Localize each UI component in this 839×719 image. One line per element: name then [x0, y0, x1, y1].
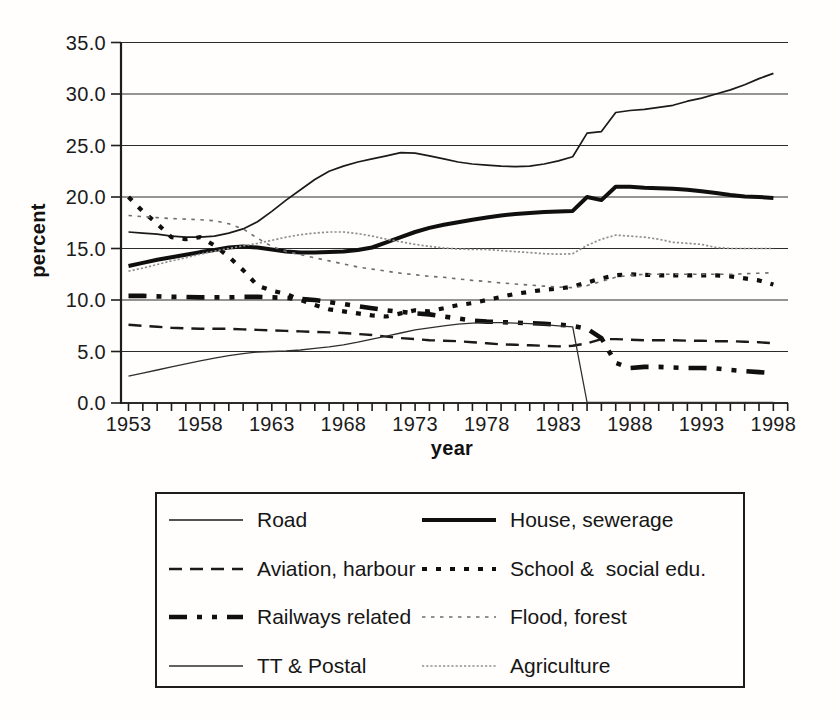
legend-swatch-aviation_harbour-icon [168, 562, 244, 576]
legend-entry-house_sewerage: House, sewerage [421, 508, 673, 532]
legend-swatch-road-icon [168, 513, 244, 527]
legend-swatch-flood_forest-icon [421, 610, 497, 624]
y-tick-label-35: 35.0 [66, 32, 106, 54]
x-tick-label-1983: 1983 [536, 413, 582, 435]
series-line-tt_postal [129, 323, 774, 403]
legend-entry-aviation_harbour: Aviation, harbour [168, 557, 421, 581]
legend-entry-agriculture: Agriculture [421, 654, 610, 678]
legend-entry-tt_postal: TT & Postal [168, 654, 421, 678]
y-tick-label-15: 15.0 [66, 238, 106, 260]
legend-row: Railways relatedFlood, forest [157, 593, 743, 642]
legend-label-school_social_edu: School & social edu. [510, 557, 706, 581]
series-line-railways_related [129, 296, 774, 373]
legend-row: TT & PostalAgriculture [157, 642, 743, 691]
x-tick-label-1968: 1968 [321, 413, 367, 435]
series-line-road [129, 73, 774, 237]
x-axis-title: year [402, 437, 502, 460]
legend-entry-railways_related: Railways related [168, 605, 421, 629]
x-tick-label-1998: 1998 [750, 413, 796, 435]
x-tick-label-1978: 1978 [464, 413, 510, 435]
y-axis-title: percent [27, 181, 50, 301]
legend-swatch-school_social_edu-icon [421, 562, 497, 576]
series-line-house_sewerage [129, 187, 774, 266]
legend-swatch-agriculture-icon [421, 659, 497, 673]
y-tick-label-30: 30.0 [66, 83, 106, 105]
legend-label-flood_forest: Flood, forest [510, 605, 627, 629]
y-tick-label-5: 5.0 [77, 341, 106, 363]
y-tick-label-10: 10.0 [66, 289, 106, 311]
legend-entry-school_social_edu: School & social edu. [421, 557, 706, 581]
legend-row: RoadHouse, sewerage [157, 496, 743, 545]
line-chart: 0.05.010.015.020.025.030.035.01953195819… [0, 0, 839, 470]
x-tick-label-1993: 1993 [679, 413, 725, 435]
legend-entry-road: Road [168, 508, 421, 532]
x-tick-label-1963: 1963 [249, 413, 295, 435]
legend-label-agriculture: Agriculture [510, 654, 610, 678]
legend-swatch-railways_related-icon [168, 610, 244, 624]
legend-box: RoadHouse, sewerageAviation, harbourScho… [155, 492, 745, 688]
series-line-school_social_edu [129, 197, 774, 317]
x-tick-label-1988: 1988 [607, 413, 653, 435]
legend-label-railways_related: Railways related [257, 605, 411, 629]
legend-label-aviation_harbour: Aviation, harbour [257, 557, 415, 581]
legend-swatch-house_sewerage-icon [421, 513, 497, 527]
y-tick-label-0: 0.0 [77, 392, 106, 414]
legend-row: Aviation, harbourSchool & social edu. [157, 545, 743, 594]
x-tick-label-1953: 1953 [106, 413, 152, 435]
scanned-line-chart-figure: 0.05.010.015.020.025.030.035.01953195819… [0, 0, 839, 719]
legend-entry-flood_forest: Flood, forest [421, 605, 627, 629]
y-tick-label-25: 25.0 [66, 135, 106, 157]
legend-label-road: Road [257, 508, 307, 532]
legend-label-tt_postal: TT & Postal [257, 654, 366, 678]
legend-swatch-tt_postal-icon [168, 659, 244, 673]
x-tick-label-1973: 1973 [392, 413, 438, 435]
y-tick-label-20: 20.0 [66, 186, 106, 208]
x-tick-label-1958: 1958 [177, 413, 223, 435]
legend-label-house_sewerage: House, sewerage [510, 508, 673, 532]
series-line-aviation_harbour [129, 325, 774, 347]
